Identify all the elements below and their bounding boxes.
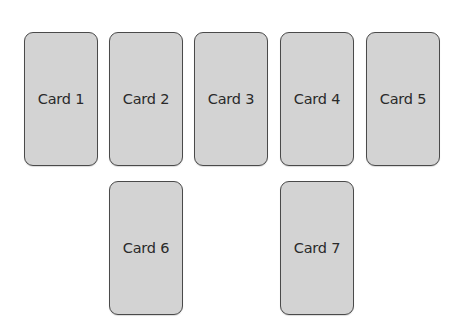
card-label: Card 3 (208, 91, 255, 107)
card-label: Card 4 (294, 91, 341, 107)
card-label: Card 2 (123, 91, 170, 107)
card-4[interactable]: Card 4 (280, 32, 354, 166)
card-label: Card 6 (123, 240, 170, 256)
card-label: Card 7 (294, 240, 341, 256)
card-label: Card 5 (380, 91, 427, 107)
card-5[interactable]: Card 5 (366, 32, 440, 166)
card-1[interactable]: Card 1 (24, 32, 98, 166)
card-3[interactable]: Card 3 (194, 32, 268, 166)
card-2[interactable]: Card 2 (109, 32, 183, 166)
card-label: Card 1 (38, 91, 85, 107)
card-6[interactable]: Card 6 (109, 181, 183, 315)
card-7[interactable]: Card 7 (280, 181, 354, 315)
